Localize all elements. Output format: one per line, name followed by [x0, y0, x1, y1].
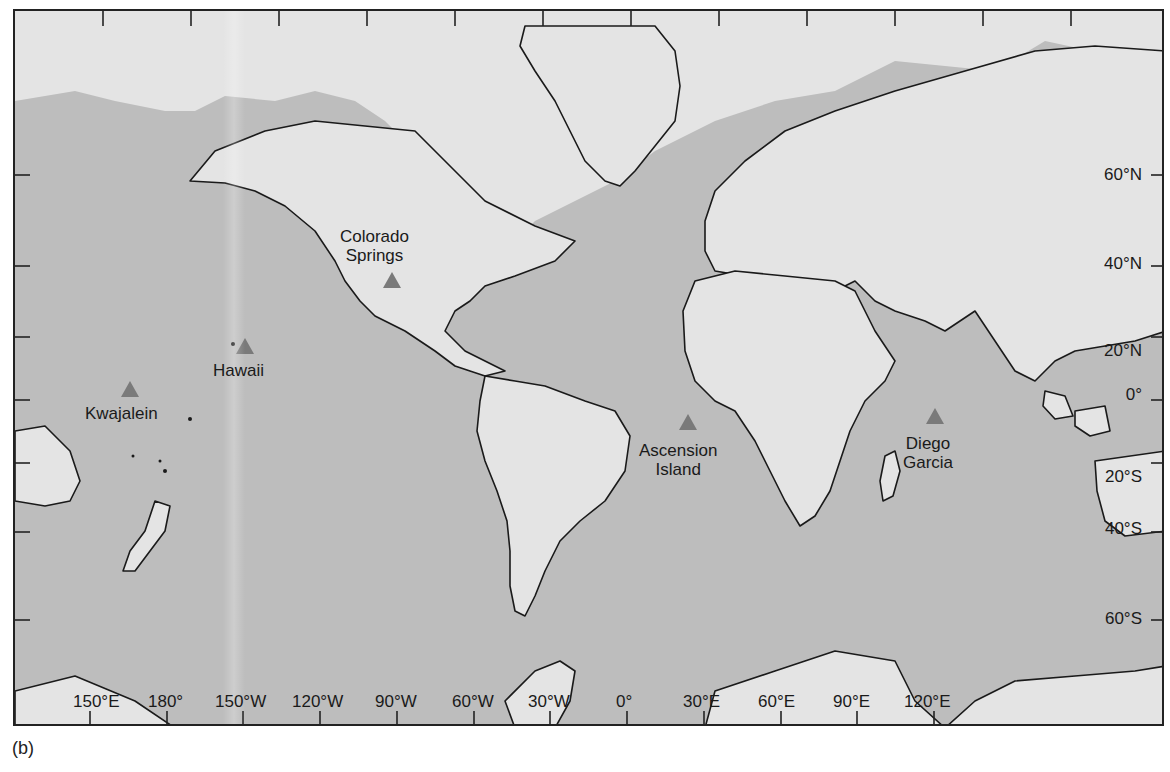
station-label-kwajalein: Kwajalein	[85, 404, 158, 423]
lon-label-120e: 120°E	[904, 692, 951, 712]
lon-label-90e: 90°E	[833, 692, 870, 712]
lat-label-60s: 60°S	[1105, 609, 1142, 629]
lat-label-40s: 40°S	[1105, 519, 1142, 539]
landmasses	[15, 11, 1164, 726]
triangle-marker-icon	[926, 408, 944, 424]
label-line: Kwajalein	[85, 404, 158, 423]
lat-label-40n: 40°N	[1104, 254, 1142, 274]
station-label-colorado-springs: Colorado Springs	[340, 227, 409, 265]
label-line: Ascension	[639, 441, 717, 460]
station-label-hawaii: Hawaii	[213, 361, 264, 380]
label-line: Hawaii	[213, 361, 264, 380]
lon-label-150w: 150°W	[215, 692, 266, 712]
lat-label-20s: 20°S	[1105, 467, 1142, 487]
label-line: Island	[639, 460, 717, 479]
lon-label-180: 180°	[148, 692, 183, 712]
lon-label-0: 0°	[616, 692, 632, 712]
lon-label-60e: 60°E	[758, 692, 795, 712]
lon-label-90w: 90°W	[375, 692, 417, 712]
lon-label-30e: 30°E	[683, 692, 720, 712]
figure-caption: (b)	[12, 738, 34, 759]
lon-label-120w: 120°W	[292, 692, 343, 712]
triangle-marker-icon	[679, 414, 697, 430]
label-line: Diego	[903, 434, 953, 453]
world-map: Colorado Springs Hawaii Kwajalein Ascens…	[13, 9, 1164, 726]
triangle-marker-icon	[121, 381, 139, 397]
label-line: Garcia	[903, 453, 953, 472]
lat-label-equator: 0°	[1126, 385, 1142, 405]
station-label-ascension-island: Ascension Island	[639, 441, 717, 479]
label-line: Colorado	[340, 227, 409, 246]
map-graphic	[15, 11, 1164, 726]
lat-label-60n: 60°N	[1104, 165, 1142, 185]
lon-label-30w: 30°W	[528, 692, 570, 712]
label-line: Springs	[340, 246, 409, 265]
lon-label-60w: 60°W	[452, 692, 494, 712]
lat-label-20n: 20°N	[1104, 341, 1142, 361]
station-label-diego-garcia: Diego Garcia	[903, 434, 953, 472]
lon-label-150e: 150°E	[73, 692, 120, 712]
